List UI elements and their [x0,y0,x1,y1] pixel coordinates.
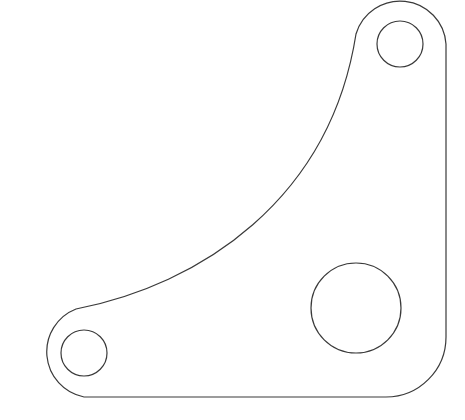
bracket-drawing [0,0,465,420]
top-right-hole [377,21,423,67]
bottom-left-hole [61,330,107,376]
large-center-hole [311,263,401,353]
plate-outline [47,1,446,397]
